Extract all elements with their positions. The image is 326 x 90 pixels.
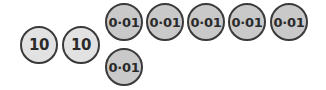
counter-hundredth: 0·01 (228, 3, 266, 41)
counter-label: 0·01 (232, 15, 263, 30)
counter-label: 0·01 (109, 60, 140, 75)
counter-label: 10 (29, 36, 49, 54)
counter-label: 0·01 (109, 15, 140, 30)
counter-ten: 10 (20, 26, 58, 64)
counter-label: 0·01 (150, 15, 181, 30)
counter-hundredth: 0·01 (187, 3, 225, 41)
counter-label: 10 (71, 36, 91, 54)
counter-hundredth: 0·01 (105, 48, 143, 86)
counter-hundredth: 0·01 (105, 3, 143, 41)
counter-label: 0·01 (191, 15, 222, 30)
counter-hundredth: 0·01 (146, 3, 184, 41)
counter-label: 0·01 (274, 15, 305, 30)
counter-hundredth: 0·01 (270, 3, 308, 41)
counter-ten: 10 (62, 26, 100, 64)
